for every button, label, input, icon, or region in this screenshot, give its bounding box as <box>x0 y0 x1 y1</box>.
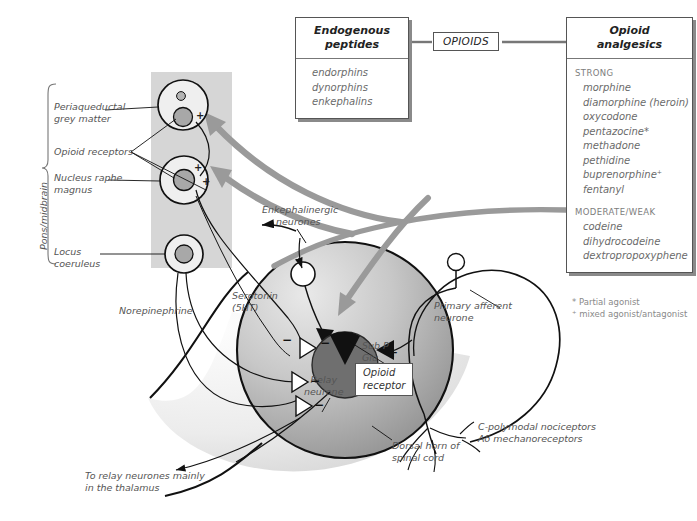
footnote-mixed-agonist: ⁺ mixed agonist/antagonist <box>572 308 687 321</box>
analgesics-heading-line2: analgesics <box>571 38 688 52</box>
pag-small-dot <box>177 92 186 101</box>
group-label-strong: STRONG <box>575 66 682 81</box>
thalamus-output-line1: To relay neurones mainly <box>85 470 205 482</box>
list-item: methadone <box>583 139 682 154</box>
minus-sign-ne-1: − <box>310 374 320 388</box>
analgesics-heading-line1: Opioid <box>571 24 688 38</box>
endogenous-peptides-box: Endogenous peptides endorphins dynorphin… <box>295 17 409 119</box>
opioid-analgesics-heading: Opioid analgesics <box>567 18 692 59</box>
list-item: diamorphine (heroin) <box>583 96 682 111</box>
afferent-arbor-5 <box>460 422 474 434</box>
plus-sign-nrm-upper: + <box>194 162 202 173</box>
a-delta-mechanoreceptors: Aδ mechanoreceptors <box>478 433 596 445</box>
list-item: oxycodone <box>583 110 682 125</box>
label-locus-coeruleus: Locus coeruleus <box>54 246 100 270</box>
dorsal-horn-line1: Dorsal horn of <box>392 440 459 452</box>
pons-midbrain-bracket-label: Pons/midbrain <box>38 182 50 250</box>
list-item: pethidine <box>583 154 682 169</box>
diagram-canvas: Endogenous peptides endorphins dynorphin… <box>0 0 697 521</box>
label-serotonin: Serotonin (5HT) <box>232 290 278 314</box>
endogenous-heading-line2: peptides <box>300 38 404 52</box>
list-item: dihydrocodeine <box>583 235 682 250</box>
pag-receptor <box>174 108 193 127</box>
lc-receptor <box>175 245 193 263</box>
label-transmitters: Sub P Glu <box>362 340 389 364</box>
label-afferent-receptor-types: C-polymodal nociceptors Aδ mechanorecept… <box>478 421 596 445</box>
label-thalamus-output: To relay neurones mainly in the thalamus <box>85 470 205 494</box>
pag-label-line1: Periaqueductal <box>54 101 125 113</box>
primary-afferent-label-line2: neurone <box>434 312 512 324</box>
plus-sign-nrm-lower: + <box>202 176 210 187</box>
list-item: pentazocine* <box>583 125 682 140</box>
label-primary-afferent-neurone: Primary afferent neurone <box>434 300 512 324</box>
nrm-receptor <box>174 170 195 191</box>
label-norepinephrine: Norepinephrine <box>119 305 193 317</box>
group-label-moderate-weak: MODERATE/WEAK <box>575 205 682 220</box>
plus-sign-afferent: + <box>388 346 398 360</box>
label-nucleus-raphe-magnus: Nucleus raphe magnus <box>54 172 122 196</box>
minus-sign-descending: − <box>347 328 357 342</box>
list-item: fentanyl <box>583 183 682 198</box>
enkephalinergic-label-line2: neurones <box>262 216 338 228</box>
list-item: enkephalins <box>312 95 398 110</box>
pag-label-line2: grey matter <box>54 113 125 125</box>
opioid-receptor-line2: receptor <box>363 379 405 392</box>
opioid-receptor-line1: Opioid <box>363 366 405 379</box>
label-periaqueductal-grey-matter: Periaqueductal grey matter <box>54 101 125 125</box>
enkephalinergic-label-line1: Enkephalinergic <box>262 204 338 216</box>
endogenous-peptides-heading: Endogenous peptides <box>296 18 408 59</box>
label-opioid-receptors: Opioid receptors <box>54 146 133 158</box>
plus-sign-pag: + <box>196 110 204 121</box>
primary-afferent-label-line1: Primary afferent <box>434 300 512 312</box>
serotonin-label-line1: Serotonin <box>232 290 278 302</box>
list-item: buprenorphine⁺ <box>583 168 682 183</box>
list-item: dynorphins <box>312 81 398 96</box>
list-item: codeine <box>583 220 682 235</box>
opioid-analgesics-list: STRONG morphine diamorphine (heroin) oxy… <box>567 59 692 272</box>
endogenous-peptides-list: endorphins dynorphins enkephalins <box>296 59 408 118</box>
serotonin-label-line2: (5HT) <box>232 302 278 314</box>
opioids-tag: OPIOIDS <box>433 32 499 51</box>
footnote-partial-agonist: * Partial agonist <box>572 296 640 309</box>
transmitter-sub-p: Sub P <box>362 340 389 352</box>
group-spacer <box>583 197 682 205</box>
enkephalinergic-soma <box>291 262 315 286</box>
lc-label-line2: coeruleus <box>54 258 100 270</box>
label-dorsal-horn: Dorsal horn of spinal cord <box>392 440 459 464</box>
nrm-label-line1: Nucleus raphe <box>54 172 122 184</box>
list-item: endorphins <box>312 66 398 81</box>
endogenous-heading-line1: Endogenous <box>300 24 404 38</box>
opioid-analgesics-box: Opioid analgesics STRONG morphine diamor… <box>566 17 693 273</box>
list-item: morphine <box>583 81 682 96</box>
minus-sign-5ht: − <box>282 333 292 347</box>
list-item: dextropropoxyphene <box>583 249 682 264</box>
label-enkephalinergic-neurones: Enkephalinergic neurones <box>262 204 338 228</box>
nrm-label-line2: magnus <box>54 184 122 196</box>
primary-afferent-soma <box>448 254 465 271</box>
leader-enkephalinergic-v <box>297 229 306 243</box>
c-polymodal-nociceptors: C-polymodal nociceptors <box>478 421 596 433</box>
opioid-receptor-callout: Opioid receptor <box>355 363 413 396</box>
dorsal-horn-line2: spinal cord <box>392 452 459 464</box>
minus-sign-enk-terminal: − <box>320 336 330 350</box>
lc-label-line1: Locus <box>54 246 100 258</box>
minus-sign-ne-2: − <box>314 398 324 412</box>
thalamus-output-line2: in the thalamus <box>85 482 205 494</box>
